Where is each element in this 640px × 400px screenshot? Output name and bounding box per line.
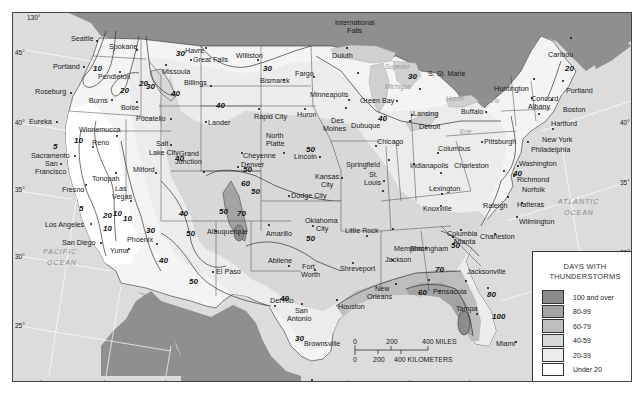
isoline-label: 60 — [418, 288, 427, 297]
city-label: Cheyenne — [243, 151, 276, 160]
longitude-label: 95° — [339, 380, 349, 381]
city-label: Junction — [175, 157, 202, 166]
scale-label: 0 — [353, 356, 357, 363]
city-label: Duluth — [332, 51, 353, 60]
isoline-label: 70 — [435, 265, 444, 274]
lake-ontario-label: Ontario — [478, 97, 500, 104]
latitude-label: 25° — [15, 322, 25, 329]
scale-label: 200 — [373, 356, 385, 363]
latitude-label: 35° — [620, 179, 630, 186]
legend-swatch — [542, 334, 564, 348]
legend-swatch — [542, 305, 564, 319]
city-label: Tampa — [456, 304, 478, 313]
city-label: Louis — [364, 178, 382, 187]
city-label: Reno — [92, 138, 109, 147]
city-label: Green Bay — [360, 96, 395, 105]
legend-rows: 100 and over 80-99 60-79 40-59 20-39 Und… — [533, 290, 632, 377]
legend-row-80-99: 80-99 — [542, 305, 632, 320]
city-label: Wilmington — [519, 217, 555, 226]
city-label: Concord — [531, 94, 558, 103]
city-label: Billings — [184, 78, 207, 87]
city-label: Platte — [266, 139, 284, 148]
city-label: Pocatello — [136, 114, 166, 123]
city-label: Hatteras — [517, 200, 545, 209]
city-label: Norfolk — [522, 185, 545, 194]
city-label: Lexington — [429, 184, 460, 193]
isoline-label: 5 — [53, 142, 58, 151]
isoline-label: 100 — [492, 312, 506, 321]
latitude-label: 30° — [15, 253, 25, 260]
city-label: Huron — [297, 110, 317, 119]
isoline-label: 10 — [103, 224, 112, 233]
city-label: Portland — [566, 86, 593, 95]
city-label: Antonio — [287, 314, 311, 323]
isoline-label: 30 — [263, 64, 272, 73]
atlantic-ocean-label: OCEAN — [564, 209, 594, 216]
city-label: Francisco — [35, 167, 66, 176]
isoline-label: 20 — [119, 86, 129, 95]
city-label: Knoxville — [423, 204, 452, 213]
isoline-label: 10 — [123, 214, 132, 223]
isoline-label: 20 — [102, 211, 112, 220]
legend-swatch — [542, 290, 564, 304]
city-label: Dubuque — [351, 121, 380, 130]
city-label: Charleston — [480, 232, 515, 241]
isoline-label: 40 — [158, 256, 168, 265]
isoline-label: 40 — [170, 89, 180, 98]
city-label: Winnemucca — [79, 125, 121, 134]
city-label: New York — [542, 135, 573, 144]
city-label: Caribou — [548, 50, 573, 59]
isoline-label: 50 — [251, 187, 260, 196]
city-label: Spokane — [109, 42, 137, 51]
longitude-label: 90° — [401, 380, 411, 381]
legend-title-line: THUNDERSTORMS — [533, 272, 632, 282]
city-label: Lake City — [149, 148, 179, 157]
city-label: Abilene — [268, 256, 292, 265]
city-label: Worth — [301, 270, 320, 279]
city-label: Detroit — [419, 122, 440, 131]
isoline-label: 50 — [186, 229, 195, 238]
isoline-label: 50 — [306, 234, 315, 243]
longitude-label: 110° — [154, 380, 167, 381]
isoline-label: 40 — [178, 209, 188, 218]
legend-row-20-39: 20-39 — [542, 348, 632, 363]
isoline-label: 50 — [189, 277, 198, 286]
legend-swatch — [542, 319, 564, 333]
isoline-label: 30 — [408, 72, 417, 81]
city-label: Lander — [208, 118, 231, 127]
city-label: Lansing — [413, 109, 438, 118]
city-label: Shreveport — [340, 264, 375, 273]
city-label: S. St. Marie — [428, 69, 466, 78]
city-label: Pendleton — [98, 72, 130, 81]
city-label: Moines — [323, 124, 347, 133]
scale-label: 200 — [386, 338, 398, 345]
city-label: Columbia — [447, 229, 477, 238]
latitude-label: 40° — [620, 119, 630, 126]
latitude-label: 35° — [15, 186, 25, 193]
city-label: Rapid City — [254, 112, 288, 121]
city-label: Great Falls — [193, 55, 229, 64]
latitude-label: 45° — [15, 49, 25, 56]
city-label: Amarillo — [266, 229, 292, 238]
city-label: Springfield — [346, 160, 380, 169]
city-label: Raleigh — [483, 201, 507, 210]
city-label: Bismarck — [260, 76, 290, 85]
city-label: Lincoln — [294, 152, 317, 161]
city-label: Little Rock — [345, 226, 379, 235]
city-label: Albany — [528, 102, 550, 111]
isoline-label: 20 — [564, 64, 574, 73]
legend-swatch — [542, 363, 564, 377]
isoline-label: 10 — [113, 209, 122, 218]
city-label: Roseburg — [35, 87, 66, 96]
city-label: Brownsville — [304, 339, 340, 348]
city-label: Vegas — [112, 192, 132, 201]
atlantic-ocean-label: ATLANTIC — [557, 198, 599, 205]
legend-label: 100 and over — [573, 294, 614, 301]
isoline-label: 60 — [241, 179, 250, 188]
city-label: Los Angeles — [45, 220, 85, 229]
city-label: Chicago — [377, 137, 403, 146]
legend-row-40-59: 40-59 — [542, 334, 632, 349]
legend-title-line: DAYS WITH — [533, 262, 632, 272]
city-label: San Diego — [62, 238, 96, 247]
city-label: Minneapolis — [310, 90, 349, 99]
